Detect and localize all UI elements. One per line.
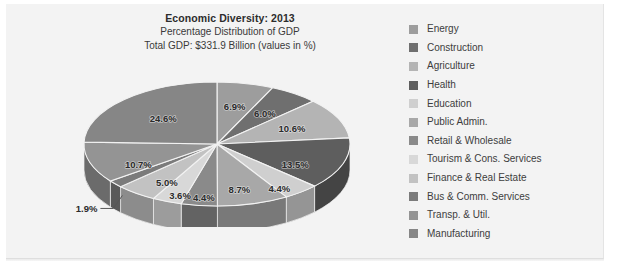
chart-title: Economic Diversity: 2013: [70, 11, 390, 25]
legend-item-label: Manufacturing: [427, 229, 490, 239]
chart-subtitle-total: Total GDP: $331.9 Billion (values in %): [70, 39, 390, 53]
legend-swatch-icon: [409, 25, 418, 34]
legend-item[interactable]: Finance & Real Estate: [409, 169, 594, 188]
legend-item-label: Agriculture: [427, 61, 475, 71]
pie-slice-side: [181, 204, 217, 227]
legend-item-label: Energy: [427, 24, 459, 34]
pie-slice-label: 10.6%: [278, 123, 305, 134]
chart-legend: EnergyConstructionAgricultureHealthEduca…: [409, 20, 594, 243]
pie-chart-svg: 6.9%6.0%10.6%13.5%4.4%8.7%4.4%3.6%5.0%1.…: [42, 62, 392, 227]
legend-item-label: Transp. & Util.: [427, 210, 490, 220]
legend-item-label: Construction: [427, 43, 483, 53]
legend-swatch-icon: [409, 43, 418, 52]
legend-item[interactable]: Retail & Wholesale: [409, 132, 594, 151]
legend-item-label: Bus & Comm. Services: [427, 192, 530, 202]
pie-slice-label: 5.0%: [156, 177, 178, 188]
pie-slice-label: 13.5%: [282, 159, 309, 170]
pie-slice-label: 6.9%: [224, 101, 246, 112]
pie-slice-label: 3.6%: [169, 190, 191, 201]
pie-slice-label: 4.4%: [193, 192, 215, 203]
legend-item[interactable]: Tourism & Cons. Services: [409, 150, 594, 169]
legend-item-label: Tourism & Cons. Services: [427, 154, 541, 164]
legend-item[interactable]: Construction: [409, 39, 594, 58]
legend-swatch-icon: [409, 155, 418, 164]
legend-item-label: Health: [427, 80, 456, 90]
legend-swatch-icon: [409, 81, 418, 90]
pie-slice-label: 24.6%: [150, 113, 177, 124]
legend-item[interactable]: Energy: [409, 20, 594, 39]
legend-swatch-icon: [409, 211, 418, 220]
legend-swatch-icon: [409, 192, 418, 201]
legend-item[interactable]: Transp. & Util.: [409, 206, 594, 225]
chart-page: Economic Diversity: 2013 Percentage Dist…: [0, 0, 619, 275]
pie-slice-label: 8.7%: [229, 184, 251, 195]
legend-swatch-icon: [409, 229, 418, 238]
legend-item-label: Retail & Wholesale: [427, 136, 511, 146]
legend-swatch-icon: [409, 118, 418, 127]
legend-item[interactable]: Education: [409, 94, 594, 113]
legend-item[interactable]: Manufacturing: [409, 225, 594, 244]
pie-slice-label: 4.4%: [269, 183, 291, 194]
legend-swatch-icon: [409, 99, 418, 108]
pie-slice-label: 6.0%: [254, 108, 276, 119]
legend-swatch-icon: [409, 62, 418, 71]
legend-item-label: Public Admin.: [427, 117, 488, 127]
chart-title-block: Economic Diversity: 2013 Percentage Dist…: [70, 11, 390, 53]
legend-item[interactable]: Health: [409, 76, 594, 95]
legend-swatch-icon: [409, 174, 418, 183]
pie-chart: 6.9%6.0%10.6%13.5%4.4%8.7%4.4%3.6%5.0%1.…: [42, 62, 392, 227]
legend-swatch-icon: [409, 136, 418, 145]
pie-slice-label: 1.9%: [76, 203, 98, 214]
pie-slices: [84, 82, 350, 206]
legend-item[interactable]: Agriculture: [409, 57, 594, 76]
legend-item-label: Education: [427, 99, 471, 109]
pie-slice-label: 10.7%: [125, 159, 152, 170]
legend-item[interactable]: Bus & Comm. Services: [409, 187, 594, 206]
legend-item-label: Finance & Real Estate: [427, 173, 527, 183]
legend-item[interactable]: Public Admin.: [409, 113, 594, 132]
chart-subtitle: Percentage Distribution of GDP: [70, 25, 390, 39]
